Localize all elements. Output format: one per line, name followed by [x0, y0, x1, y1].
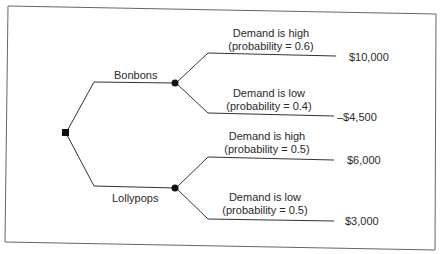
outcome-probability: (probability = 0.5): [222, 204, 307, 216]
chance-node-lollypops: [172, 185, 179, 192]
outcome-probability: (probability = 0.4): [226, 100, 311, 112]
payoff-value: –$4,500: [337, 111, 377, 123]
payoff-value: $3,000: [345, 215, 379, 227]
outcome-label: Demand is high: [229, 130, 305, 142]
decision-node: [62, 129, 69, 136]
payoff-value: $6,000: [347, 154, 381, 166]
decision-tree-diagram: Bonbons Lollypops Demand is high (probab…: [0, 0, 442, 254]
outcome-probability: (probability = 0.6): [228, 40, 313, 52]
outcome-label: Demand is high: [233, 27, 309, 39]
outcome-probability: (probability = 0.5): [224, 143, 309, 155]
branch-lollypops: [66, 133, 175, 188]
chance-node-bonbons: [172, 80, 179, 87]
outcome-label: Demand is low: [229, 191, 301, 203]
frame-border: [5, 6, 436, 250]
branch-bonbons-high: [176, 53, 336, 83]
option-label-lollypops: Lollypops: [112, 192, 159, 204]
option-label-bonbons: Bonbons: [114, 69, 158, 81]
branch-lollypops-high: [176, 157, 334, 188]
branch-bonbons: [66, 82, 175, 133]
payoff-value: $10,000: [349, 51, 389, 63]
outcome-label: Demand is low: [233, 87, 305, 99]
